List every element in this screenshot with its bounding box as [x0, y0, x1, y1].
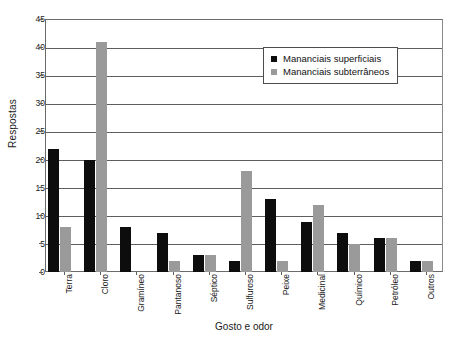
y-axis-tick-mark: [39, 243, 43, 244]
bar: [277, 261, 288, 272]
y-axis-tick-mark: [39, 215, 43, 216]
x-axis-tick-labels: TerraCloroGramíneoPantanosoSépticoSulfur…: [46, 274, 442, 320]
x-axis-tick: Outros: [419, 274, 433, 320]
y-axis: 051015202530354045: [0, 19, 45, 272]
bar: [96, 42, 107, 272]
x-axis-tick-label: Séptico: [209, 274, 219, 302]
x-axis-tick: Gramíneo: [129, 274, 143, 320]
bar: [84, 160, 95, 272]
x-axis-tick-label: Outros: [426, 274, 436, 300]
bar: [422, 261, 433, 272]
bar: [60, 227, 71, 272]
bar: [120, 227, 131, 272]
x-axis-tick: Séptico: [202, 274, 216, 320]
bar-group: [118, 20, 154, 272]
bar-group: [408, 20, 444, 272]
x-axis-tick: Petróleo: [383, 274, 397, 320]
x-axis-tick: Peixe: [274, 274, 288, 320]
x-axis-tick-label: Medicinal: [317, 274, 327, 310]
bar: [193, 255, 204, 272]
bar: [265, 199, 276, 272]
y-axis-tick-mark: [39, 159, 43, 160]
bar: [301, 222, 312, 272]
x-axis-title: Gosto e odor: [45, 321, 443, 332]
bar-group: [155, 20, 191, 272]
bar-group: [46, 20, 82, 272]
bar: [313, 205, 324, 272]
x-axis-tick: Terra: [57, 274, 71, 320]
bar: [374, 238, 385, 272]
x-axis-tick-label: Terra: [64, 274, 74, 293]
x-axis-tick: Cloro: [93, 274, 107, 320]
x-axis-tick: Químico: [347, 274, 361, 320]
x-axis-tick-label: Peixe: [281, 274, 291, 295]
bar: [229, 261, 240, 272]
legend-item: Mananciais superficiais: [271, 52, 389, 65]
legend-label: Mananciais subterrâneos: [283, 66, 389, 77]
y-axis-tick-mark: [39, 19, 43, 20]
x-axis-tick: Pantanoso: [166, 274, 180, 320]
y-axis-tick-mark: [39, 187, 43, 188]
y-axis-tick-mark: [39, 47, 43, 48]
bar-chart: Respostas 051015202530354045 TerraCloroG…: [0, 0, 453, 341]
bar: [337, 233, 348, 272]
bar: [48, 149, 59, 272]
bar-group: [191, 20, 227, 272]
y-axis-tick-mark: [39, 103, 43, 104]
legend-label: Mananciais superficiais: [283, 53, 381, 64]
x-axis-tick-label: Pantanoso: [173, 274, 183, 315]
x-axis-tick: Sulfuroso: [238, 274, 252, 320]
x-axis-tick: Medicinal: [310, 274, 324, 320]
x-axis-tick-label: Petróleo: [390, 274, 400, 306]
legend: Mananciais superficiaisMananciais subter…: [263, 47, 398, 84]
legend-swatch-icon: [271, 69, 277, 75]
bar: [205, 255, 216, 272]
bar-group: [82, 20, 118, 272]
bar: [386, 238, 397, 272]
legend-item: Mananciais subterrâneos: [271, 65, 389, 78]
bar: [410, 261, 421, 272]
bar: [349, 244, 360, 272]
x-axis-tick-label: Cloro: [100, 274, 110, 294]
y-axis-tick-mark: [39, 75, 43, 76]
legend-swatch-icon: [271, 56, 277, 62]
y-axis-tick-mark: [39, 272, 43, 273]
bar: [157, 233, 168, 272]
y-axis-tick-mark: [39, 131, 43, 132]
x-axis-tick-label: Sulfuroso: [245, 274, 255, 310]
bar-group: [227, 20, 263, 272]
x-axis-tick-label: Químico: [354, 274, 364, 306]
x-axis-tick-label: Gramíneo: [136, 274, 146, 312]
bar: [241, 171, 252, 272]
bar: [169, 261, 180, 272]
